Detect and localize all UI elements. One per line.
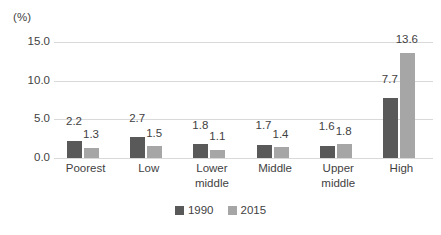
bar-1990-poorest[interactable] bbox=[67, 141, 82, 158]
category-label-upper-middle: Uppermiddle bbox=[303, 161, 373, 191]
category-label-line: middle bbox=[177, 176, 247, 191]
category-label-lower-middle: Lowermiddle bbox=[177, 161, 247, 191]
bar-1990-upper-middle[interactable] bbox=[320, 146, 335, 158]
bar-group: 1.81.1 bbox=[180, 20, 243, 158]
legend-swatch-icon bbox=[228, 206, 237, 215]
chart-legend: 19902015 bbox=[0, 205, 441, 217]
bar-value-label: 1.4 bbox=[268, 129, 294, 141]
bar-value-label: 2.7 bbox=[124, 113, 150, 125]
y-axis-tick-10.0: 10.0 bbox=[8, 75, 50, 87]
bar-2015-middle[interactable] bbox=[274, 147, 289, 158]
y-axis-tick-0.0: 0.0 bbox=[8, 152, 50, 164]
bar-group: 2.71.5 bbox=[117, 20, 180, 158]
bar-value-label: 1.3 bbox=[78, 129, 104, 141]
category-label-low: Low bbox=[114, 161, 184, 176]
bar-value-label: 1.1 bbox=[204, 131, 230, 143]
bar-value-label: 13.6 bbox=[394, 34, 420, 46]
bar-1990-lower-middle[interactable] bbox=[193, 144, 208, 158]
category-label-line: middle bbox=[303, 176, 373, 191]
axis-baseline bbox=[54, 158, 433, 159]
bar-value-label: 1.8 bbox=[331, 126, 357, 138]
bar-value-label: 1.5 bbox=[141, 128, 167, 140]
legend-item-2015[interactable]: 2015 bbox=[228, 205, 267, 217]
bar-chart: (%) 0.05.010.015.0 2.21.32.71.51.81.11.7… bbox=[0, 0, 441, 235]
bar-1990-high[interactable] bbox=[383, 98, 398, 158]
bar-value-label: 2.2 bbox=[61, 116, 87, 128]
category-label-line: Low bbox=[114, 161, 184, 176]
category-label-line: Upper bbox=[303, 161, 373, 176]
bar-group: 1.71.4 bbox=[244, 20, 307, 158]
category-label-line: Poorest bbox=[51, 161, 121, 176]
bar-2015-upper-middle[interactable] bbox=[337, 144, 352, 158]
bar-1990-low[interactable] bbox=[130, 137, 145, 158]
bar-group: 2.21.3 bbox=[54, 20, 117, 158]
bar-1990-middle[interactable] bbox=[257, 145, 272, 158]
x-axis-category-labels: PoorestLowLowermiddleMiddleUppermiddleHi… bbox=[54, 161, 433, 201]
bar-2015-high[interactable] bbox=[400, 53, 415, 158]
bar-group: 7.713.6 bbox=[370, 20, 433, 158]
category-label-middle: Middle bbox=[240, 161, 310, 176]
bar-2015-low[interactable] bbox=[147, 146, 162, 158]
category-label-poorest: Poorest bbox=[51, 161, 121, 176]
bar-groups: 2.21.32.71.51.81.11.71.41.61.87.713.6 bbox=[54, 20, 433, 158]
legend-item-1990[interactable]: 1990 bbox=[175, 205, 214, 217]
category-label-line: High bbox=[366, 161, 436, 176]
category-label-line: Middle bbox=[240, 161, 310, 176]
bar-2015-poorest[interactable] bbox=[84, 148, 99, 158]
category-label-high: High bbox=[366, 161, 436, 176]
bar-group: 1.61.8 bbox=[307, 20, 370, 158]
bar-2015-lower-middle[interactable] bbox=[210, 150, 225, 159]
legend-swatch-icon bbox=[175, 206, 184, 215]
legend-label: 1990 bbox=[188, 205, 214, 217]
y-axis-tick-5.0: 5.0 bbox=[8, 113, 50, 125]
legend-label: 2015 bbox=[241, 205, 267, 217]
category-label-line: Lower bbox=[177, 161, 247, 176]
y-axis-tick-15.0: 15.0 bbox=[8, 36, 50, 48]
y-axis-tick-labels: 0.05.010.015.0 bbox=[0, 0, 50, 235]
